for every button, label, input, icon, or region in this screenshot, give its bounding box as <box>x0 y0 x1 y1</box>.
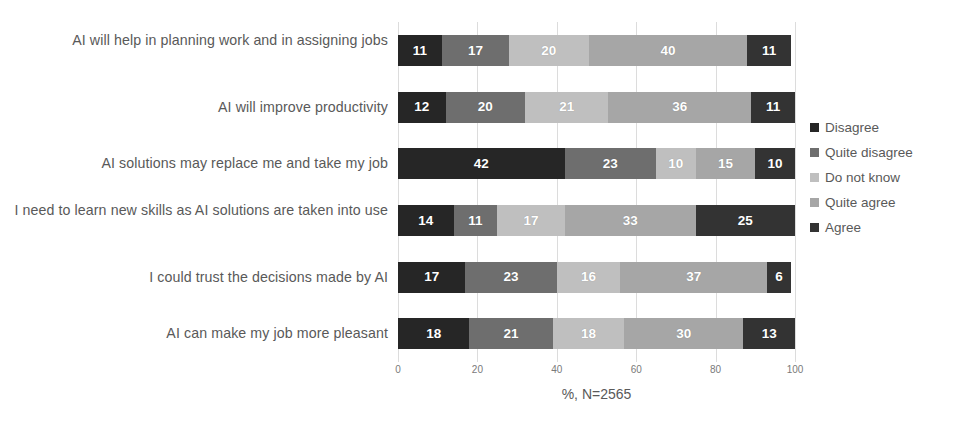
bar-segment-value: 33 <box>623 214 638 228</box>
plot-area: 1117204011122021361142231015101411173325… <box>398 22 795 362</box>
x-axis-title: %, N=2565 <box>398 386 795 402</box>
bar-segment-value: 18 <box>581 327 596 341</box>
bar-segment-value: 17 <box>523 214 538 228</box>
bar-segment: 25 <box>696 205 795 236</box>
bar-segment: 10 <box>656 148 696 179</box>
bar-row: 172316376 <box>398 262 795 293</box>
legend-swatch-icon <box>810 123 819 132</box>
bar-segment-value: 12 <box>414 100 429 114</box>
category-label: AI can make my job more pleasant <box>10 324 388 343</box>
bar-segment: 21 <box>525 92 608 123</box>
legend-label: Disagree <box>825 121 879 135</box>
bar-segment: 11 <box>454 205 498 236</box>
bar-segment: 11 <box>751 92 795 123</box>
bar-segment-value: 11 <box>468 214 482 228</box>
bar-segment-value: 40 <box>660 44 675 58</box>
gridline-40 <box>557 22 558 362</box>
bar-segment: 33 <box>565 205 696 236</box>
bar-segment-value: 11 <box>766 100 780 114</box>
bar-segment-value: 16 <box>581 270 596 284</box>
bar-segment: 20 <box>446 92 525 123</box>
bar-segment-value: 23 <box>603 157 618 171</box>
bar-row: 1821183013 <box>398 318 795 349</box>
legend-label: Quite agree <box>825 196 896 210</box>
bar-segment-value: 17 <box>468 44 483 58</box>
bar-segment-value: 21 <box>559 100 574 114</box>
gridline-0 <box>398 22 399 362</box>
bar-segment-value: 10 <box>768 157 783 171</box>
bar-segment: 37 <box>620 262 767 293</box>
x-tick-label: 0 <box>395 364 401 375</box>
bar-segment: 17 <box>497 205 564 236</box>
bar-segment-value: 20 <box>541 44 556 58</box>
bar-segment: 20 <box>509 35 588 66</box>
x-tick-label: 80 <box>710 364 721 375</box>
bar-segment-value: 15 <box>718 157 733 171</box>
bar-segment-value: 13 <box>762 327 777 341</box>
gridline-80 <box>716 22 717 362</box>
bar-segment: 15 <box>696 148 756 179</box>
legend-item[interactable]: Quite disagree <box>810 140 970 165</box>
bar-segment: 6 <box>767 262 791 293</box>
x-tick-label: 100 <box>787 364 804 375</box>
gridline-60 <box>636 22 637 362</box>
bar-segment-value: 37 <box>686 270 701 284</box>
legend-item[interactable]: Quite agree <box>810 190 970 215</box>
x-tick-label: 20 <box>472 364 483 375</box>
bar-segment-value: 18 <box>426 327 441 341</box>
bar-segment-value: 6 <box>775 270 783 284</box>
gridline-20 <box>477 22 478 362</box>
bar-segment: 13 <box>743 318 795 349</box>
bar-segment-value: 20 <box>478 100 493 114</box>
bar-segment-value: 42 <box>474 157 489 171</box>
x-tick-label: 40 <box>551 364 562 375</box>
bar-segment: 30 <box>624 318 743 349</box>
bar-segment: 11 <box>398 35 442 66</box>
bar-segment-value: 25 <box>738 214 753 228</box>
bar-segment-value: 21 <box>504 327 519 341</box>
legend-item[interactable]: Do not know <box>810 165 970 190</box>
x-tick-label: 60 <box>631 364 642 375</box>
bar-segment: 17 <box>398 262 465 293</box>
bar-segment: 42 <box>398 148 565 179</box>
bar-row: 1411173325 <box>398 205 795 236</box>
category-label: AI solutions may replace me and take my … <box>10 154 388 173</box>
bar-segment: 16 <box>557 262 621 293</box>
legend-label: Quite disagree <box>825 146 913 160</box>
legend-label: Agree <box>825 221 861 235</box>
bar-segment-value: 11 <box>413 44 427 58</box>
legend-item[interactable]: Disagree <box>810 115 970 140</box>
bar-segment: 18 <box>553 318 624 349</box>
bar-segment-value: 11 <box>762 44 776 58</box>
bar-segment: 10 <box>755 148 795 179</box>
bar-segment-value: 23 <box>504 270 519 284</box>
bar-segment-value: 14 <box>418 214 433 228</box>
category-label: AI will help in planning work and in ass… <box>10 31 388 50</box>
bar-segment: 11 <box>747 35 791 66</box>
x-axis: 020406080100 <box>398 364 795 384</box>
bar-segment: 21 <box>469 318 552 349</box>
bar-segment: 17 <box>442 35 509 66</box>
bar-row: 1117204011 <box>398 35 795 66</box>
gridline-100 <box>795 22 796 362</box>
chart-legend: DisagreeQuite disagreeDo not knowQuite a… <box>810 115 970 240</box>
bar-segment-value: 10 <box>668 157 683 171</box>
category-label: I could trust the decisions made by AI <box>10 268 388 287</box>
category-label: AI will improve productivity <box>10 98 388 117</box>
bar-segment: 23 <box>565 148 656 179</box>
legend-swatch-icon <box>810 223 819 232</box>
legend-swatch-icon <box>810 173 819 182</box>
legend-swatch-icon <box>810 198 819 207</box>
bar-segment: 18 <box>398 318 469 349</box>
bar-segment: 14 <box>398 205 454 236</box>
bar-segment-value: 17 <box>424 270 439 284</box>
bar-segment: 36 <box>608 92 751 123</box>
bar-segment: 23 <box>465 262 556 293</box>
legend-item[interactable]: Agree <box>810 215 970 240</box>
bar-row: 4223101510 <box>398 148 795 179</box>
legend-swatch-icon <box>810 148 819 157</box>
category-label: I need to learn new skills as AI solutio… <box>10 201 388 220</box>
bar-segment: 40 <box>589 35 748 66</box>
bar-segment-value: 36 <box>672 100 687 114</box>
category-axis: AI will help in planning work and in ass… <box>10 22 388 362</box>
